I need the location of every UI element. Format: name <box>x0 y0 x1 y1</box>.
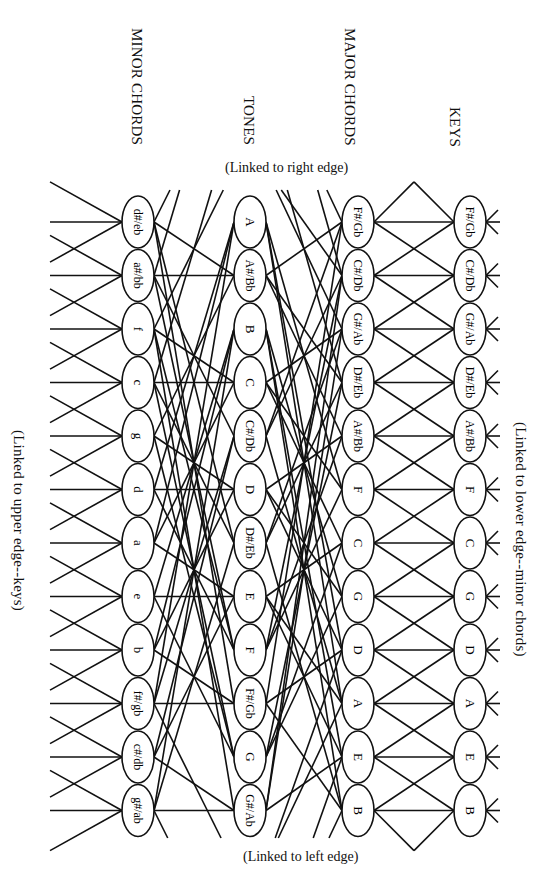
chord-network-diagram: F#/GbC#/DbG#/AbD#/EbA#/BbFCGDAEBF#/GbC#/… <box>0 0 549 886</box>
tone-node: G <box>234 731 266 783</box>
tone-node: D#/Eb <box>234 517 266 569</box>
major-chord-node: G <box>342 571 374 623</box>
link-line <box>327 190 342 222</box>
tone-node: A <box>234 196 266 248</box>
link-line <box>414 182 454 222</box>
svg-text:F: F <box>243 646 258 653</box>
link-line <box>486 757 498 769</box>
link-line <box>486 210 498 222</box>
link-line <box>414 811 454 851</box>
link-line <box>276 190 342 329</box>
major-chord-node: G#/Ab <box>342 303 374 355</box>
link-line <box>486 329 498 341</box>
key-node: F <box>454 464 486 516</box>
svg-text:G#/Ab: G#/Ab <box>463 313 477 346</box>
svg-text:c#/db: c#/db <box>131 744 145 771</box>
minor-chord-node: f <box>122 303 154 355</box>
link-line <box>486 264 498 276</box>
svg-text:D#/Eb: D#/Eb <box>243 527 257 558</box>
svg-text:A#/Bb: A#/Bb <box>243 259 257 291</box>
svg-text:D: D <box>463 645 478 654</box>
tone-node: C#/Db <box>234 410 266 462</box>
link-line <box>154 811 168 839</box>
minor-chord-node: g <box>122 410 154 462</box>
link-line <box>486 371 498 383</box>
svg-text:F#/Gb: F#/Gb <box>463 207 477 238</box>
link-line <box>486 424 498 436</box>
key-node: A#/Bb <box>454 410 486 462</box>
svg-text:C: C <box>351 539 366 548</box>
key-node: B <box>454 785 486 837</box>
svg-text:G#/Ab: G#/Ab <box>351 313 365 346</box>
major-chord-node: D#/Eb <box>342 357 374 409</box>
key-node: A <box>454 678 486 730</box>
key-node: C <box>454 517 486 569</box>
link-line <box>486 543 498 555</box>
svg-text:F: F <box>351 486 366 493</box>
minor-chord-node: f#/gb <box>122 678 154 730</box>
link-line <box>486 436 498 448</box>
minor-chord-node: c <box>122 357 154 409</box>
svg-text:f#/gb: f#/gb <box>131 691 145 716</box>
svg-text:e: e <box>131 594 146 600</box>
minor-chord-node: b <box>122 624 154 676</box>
key-node: E <box>454 731 486 783</box>
link-line <box>154 190 180 276</box>
link-line <box>486 383 498 395</box>
svg-text:A: A <box>463 699 478 709</box>
minor-chord-node: e <box>122 571 154 623</box>
link-line <box>154 704 221 839</box>
svg-text:B: B <box>463 806 478 815</box>
minor-chord-node: g#/ab <box>122 785 154 837</box>
major-chord-node: C <box>342 517 374 569</box>
link-line <box>486 490 498 502</box>
svg-text:E: E <box>351 753 366 761</box>
svg-text:a#/bb: a#/bb <box>131 262 145 289</box>
link-line <box>486 799 498 811</box>
svg-text:C#/Db: C#/Db <box>463 259 477 291</box>
link-line <box>486 650 498 662</box>
minor-chord-node: d#/eb <box>122 196 154 248</box>
tone-node: F#/Gb <box>234 678 266 730</box>
svg-text:D#/Eb: D#/Eb <box>463 367 477 398</box>
minor-chord-node: a <box>122 517 154 569</box>
svg-text:C: C <box>243 378 258 387</box>
link-line <box>154 222 234 490</box>
svg-text:a: a <box>131 540 146 546</box>
svg-text:C#/Db: C#/Db <box>351 259 365 291</box>
link-line <box>486 276 498 288</box>
major-chord-node: D <box>342 624 374 676</box>
svg-text:A#/Bb: A#/Bb <box>463 420 477 452</box>
link-line <box>486 585 498 597</box>
svg-text:B: B <box>351 806 366 815</box>
link-line <box>486 811 498 823</box>
key-node: F#/Gb <box>454 196 486 248</box>
svg-text:A: A <box>351 699 366 709</box>
major-chord-node: B <box>342 785 374 837</box>
link-line <box>329 811 342 839</box>
tone-node: D <box>234 464 266 516</box>
link-line <box>486 317 498 329</box>
svg-text:G: G <box>243 752 258 761</box>
link-line <box>374 182 414 222</box>
svg-text:F#/Gb: F#/Gb <box>243 688 257 719</box>
link-line <box>486 222 498 234</box>
link-line <box>486 745 498 757</box>
svg-text:d#/eb: d#/eb <box>131 209 145 236</box>
svg-text:G: G <box>351 592 366 601</box>
tone-node: A#/Bb <box>234 250 266 302</box>
link-line <box>266 597 342 704</box>
link-line <box>154 190 212 383</box>
link-line <box>50 182 122 222</box>
link-line <box>486 638 498 650</box>
major-chord-node: F <box>342 464 374 516</box>
svg-text:g#/ab: g#/ab <box>131 797 145 824</box>
svg-text:C: C <box>463 539 478 548</box>
major-chord-node: E <box>342 731 374 783</box>
minor-chord-node: a#/bb <box>122 250 154 302</box>
link-line <box>486 692 498 704</box>
minor-chord-node: c#/db <box>122 731 154 783</box>
svg-text:d: d <box>131 486 146 493</box>
svg-text:c: c <box>131 380 146 386</box>
svg-text:A: A <box>243 217 258 227</box>
